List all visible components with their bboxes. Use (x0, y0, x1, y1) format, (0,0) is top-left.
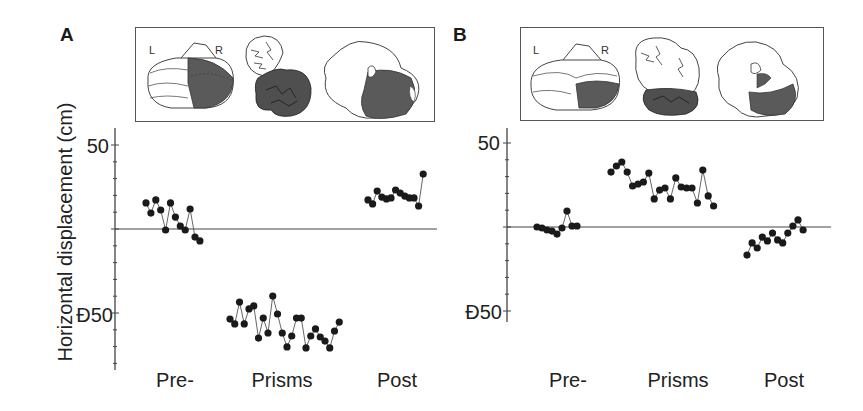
data-point (410, 194, 417, 201)
data-point (563, 207, 570, 214)
data-point (298, 314, 305, 321)
data-point (336, 318, 343, 325)
data-point (274, 310, 281, 317)
data-point (331, 327, 338, 334)
data-point (645, 169, 652, 176)
data-point (769, 229, 776, 236)
data-point (710, 202, 717, 209)
data-point (326, 344, 333, 351)
data-point (288, 332, 295, 339)
data-point (705, 192, 712, 199)
data-point (794, 216, 801, 223)
data-point (784, 229, 791, 236)
data-point (279, 329, 286, 336)
data-point (779, 239, 786, 246)
data-point (269, 292, 276, 299)
data-point (743, 251, 750, 258)
data-point (694, 199, 701, 206)
data-point (789, 222, 796, 229)
data-point (688, 184, 695, 191)
data-point (167, 199, 174, 206)
data-point (147, 209, 154, 216)
data-point (264, 329, 271, 336)
data-point (236, 298, 243, 305)
data-point (624, 168, 631, 175)
data-point (231, 320, 238, 327)
data-point (255, 334, 262, 341)
data-point (162, 226, 169, 233)
data-point (321, 337, 328, 344)
data-point (312, 325, 319, 332)
data-point (667, 195, 674, 202)
data-point (152, 196, 159, 203)
figure: A B L R (0, 0, 863, 411)
scatter-plots (0, 0, 863, 411)
data-point (196, 237, 203, 244)
data-point (387, 194, 394, 201)
data-point (182, 226, 189, 233)
data-point (553, 230, 560, 237)
data-point (172, 213, 179, 220)
data-point (142, 199, 149, 206)
data-point (241, 320, 248, 327)
data-point (369, 200, 376, 207)
data-point (283, 343, 290, 350)
data-point (618, 158, 625, 165)
data-point (800, 226, 807, 233)
data-point (764, 237, 771, 244)
data-point (307, 332, 314, 339)
data-point (754, 244, 761, 251)
data-point (672, 174, 679, 181)
data-point (250, 302, 257, 309)
data-point (415, 202, 422, 209)
data-point (607, 168, 614, 175)
data-point (157, 206, 164, 213)
data-point (640, 178, 647, 185)
data-point (749, 239, 756, 246)
data-point (651, 195, 658, 202)
data-point (374, 187, 381, 194)
data-point (661, 184, 668, 191)
data-point (187, 205, 194, 212)
data-point (558, 224, 565, 231)
data-point (302, 344, 309, 351)
data-point (573, 222, 580, 229)
data-point (699, 166, 706, 173)
data-point (420, 170, 427, 177)
data-point (260, 314, 267, 321)
